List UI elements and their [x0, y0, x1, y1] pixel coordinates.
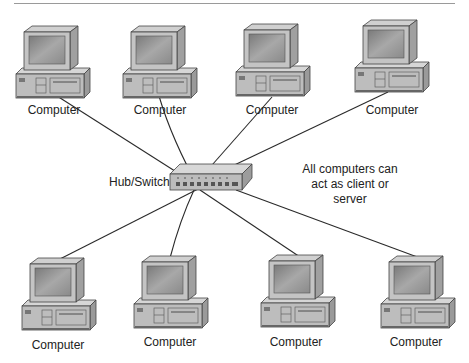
computer-label: Computer	[366, 103, 419, 117]
link-pc7-hub	[200, 190, 300, 257]
computer-icon	[232, 22, 312, 100]
computer-label: Computer	[32, 338, 85, 352]
computer-icon	[130, 254, 210, 332]
computer-label: Computer	[134, 103, 187, 117]
note-line: server	[290, 192, 410, 207]
link-pc6-hub	[170, 190, 194, 258]
hub-label: Hub/Switch	[109, 175, 170, 189]
annotation-note: All computers can act as client or serve…	[290, 162, 410, 207]
link-pc5-hub	[56, 188, 200, 261]
computer-icon	[257, 253, 337, 331]
computer-icon	[119, 24, 199, 102]
computer-icon	[18, 256, 98, 334]
computer-label: Computer	[246, 103, 299, 117]
computer-label: Computer	[144, 335, 197, 349]
computer-label: Computer	[390, 335, 443, 349]
note-line: All computers can	[290, 162, 410, 177]
computer-label: Computer	[28, 103, 81, 117]
computer-icon	[12, 24, 92, 102]
computer-icon	[377, 254, 457, 332]
computer-icon	[351, 18, 431, 96]
computer-label: Computer	[270, 335, 323, 349]
hub-switch-icon	[168, 160, 254, 196]
note-line: act as client or	[290, 177, 410, 192]
